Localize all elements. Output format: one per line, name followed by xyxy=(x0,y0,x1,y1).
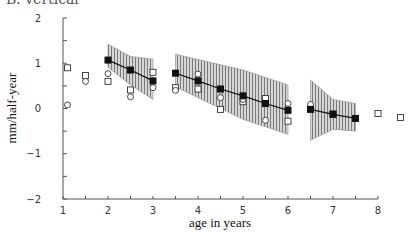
filled-square-marker xyxy=(172,70,179,77)
open-circle-marker xyxy=(105,71,111,77)
x-tick-label: 7 xyxy=(330,205,336,216)
open-square-marker xyxy=(83,72,89,78)
y-tick-label: −2 xyxy=(26,194,41,205)
filled-square-marker xyxy=(285,107,292,114)
filled-square-marker xyxy=(240,92,247,99)
confidence-band xyxy=(311,80,356,140)
open-circle-marker xyxy=(83,78,89,84)
filled-square-marker xyxy=(127,67,134,74)
open-square-marker xyxy=(195,86,201,92)
open-square-marker xyxy=(65,65,71,71)
filled-square-marker xyxy=(217,86,224,93)
filled-square-marker xyxy=(330,111,337,118)
open-square-marker xyxy=(105,78,111,84)
x-tick-label: 6 xyxy=(285,205,291,216)
y-tick-label: 2 xyxy=(35,13,41,24)
filled-square-marker xyxy=(352,115,359,122)
x-tick-label: 1 xyxy=(60,205,66,216)
filled-square-marker xyxy=(150,77,157,84)
open-circle-marker xyxy=(218,95,224,101)
x-axis-label: age in years xyxy=(189,215,251,230)
filled-square-marker xyxy=(307,106,314,113)
open-circle-marker xyxy=(195,71,201,77)
y-tick-label: 0 xyxy=(35,103,41,114)
x-tick-label: 2 xyxy=(105,205,111,216)
open-square-marker xyxy=(285,118,291,124)
confidence-band xyxy=(176,54,289,134)
open-square-marker xyxy=(150,69,156,75)
open-circle-marker xyxy=(263,117,269,123)
open-circle-marker xyxy=(150,85,156,91)
open-circle-marker xyxy=(285,101,291,107)
scatter-chart: −2−101212345678 age in years mm/half-yea… xyxy=(0,0,412,233)
open-circle-marker xyxy=(65,102,71,108)
open-square-marker xyxy=(398,115,404,121)
open-square-marker xyxy=(128,87,134,93)
open-circle-marker xyxy=(128,94,134,100)
y-axis-label: mm/half-year xyxy=(4,72,19,143)
filled-square-marker xyxy=(195,77,202,84)
open-square-marker xyxy=(375,110,381,116)
x-tick-label: 3 xyxy=(150,205,156,216)
open-square-marker xyxy=(218,106,224,112)
y-tick-label: −1 xyxy=(26,148,41,159)
filled-square-marker xyxy=(262,100,269,107)
x-tick-label: 8 xyxy=(375,205,381,216)
y-tick-label: 1 xyxy=(35,58,41,69)
filled-square-marker xyxy=(105,57,112,64)
open-circle-marker xyxy=(173,87,179,93)
